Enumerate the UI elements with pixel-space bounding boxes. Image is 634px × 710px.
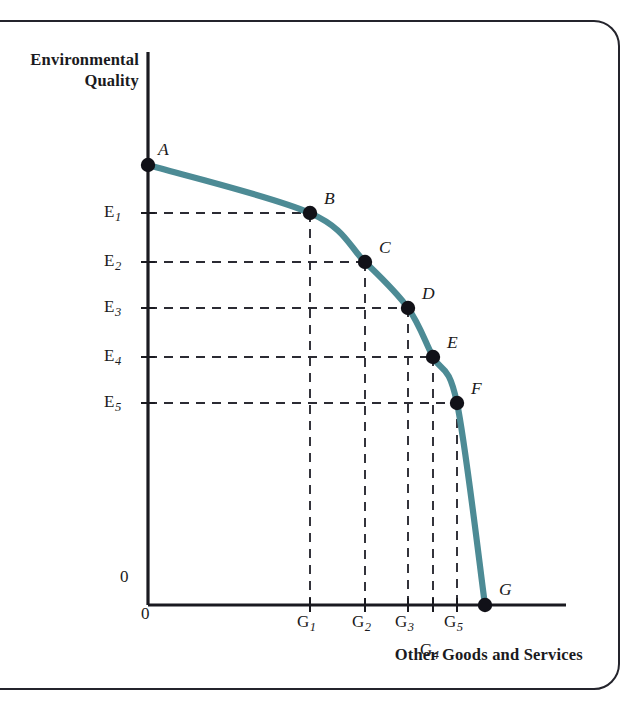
data-point-D [401, 301, 415, 315]
y-tick-label-E1: E1 [104, 202, 121, 222]
y-axis-origin-label: 0 [120, 567, 129, 587]
tick-marks-group [141, 213, 457, 612]
y-tick-label-E3: E3 [104, 297, 121, 317]
x-tick-label-G1: G1 [297, 612, 316, 632]
x-tick-label-G3: G3 [395, 612, 414, 632]
y-tick-label-E4: E4 [104, 346, 121, 366]
y-tick-label-E5: E5 [104, 392, 121, 412]
y-axis-title: Environmental Quality [6, 49, 139, 91]
x-tick-label-G4: G4 [420, 640, 439, 660]
data-point-G [478, 598, 492, 612]
point-label-G: G [499, 579, 512, 600]
data-point-A [141, 158, 155, 172]
axes-group [148, 52, 566, 605]
x-axis-origin-label: 0 [141, 604, 150, 624]
data-point-F [450, 396, 464, 410]
point-label-C: C [379, 237, 391, 258]
data-point-C [358, 255, 372, 269]
x-axis-title: Other Goods and Services [338, 644, 583, 665]
x-tick-label-G5: G5 [444, 612, 463, 632]
point-label-E: E [447, 332, 458, 353]
ppf-plot [0, 0, 634, 710]
y-tick-label-E2: E2 [104, 251, 121, 271]
ppf-figure: Environmental Quality Other Goods and Se… [0, 0, 634, 710]
point-label-B: B [324, 188, 335, 209]
data-point-B [303, 206, 317, 220]
x-tick-label-G2: G2 [352, 612, 371, 632]
frontier-curve [148, 165, 485, 605]
point-label-F: F [471, 378, 482, 399]
point-label-A: A [158, 139, 169, 160]
data-point-E [426, 350, 440, 364]
point-label-D: D [422, 283, 435, 304]
data-points-group [141, 158, 492, 612]
frontier-curve-group [148, 165, 485, 605]
guide-lines-group [148, 213, 457, 605]
